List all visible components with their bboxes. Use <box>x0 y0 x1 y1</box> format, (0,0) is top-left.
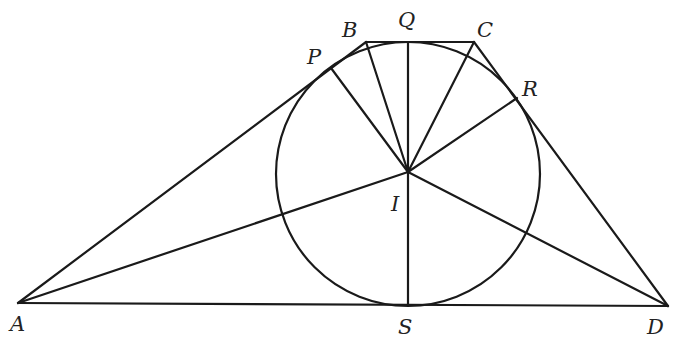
geometry-figure: ABQCPRISD <box>0 0 680 349</box>
label-I: I <box>390 192 400 216</box>
segment-IP <box>331 68 408 172</box>
label-S: S <box>398 315 412 339</box>
label-C: C <box>477 18 493 42</box>
label-P: P <box>306 45 322 69</box>
segments <box>18 42 668 306</box>
label-B: B <box>341 18 357 42</box>
segment-AD <box>18 303 668 306</box>
label-R: R <box>521 77 538 101</box>
label-D: D <box>646 315 664 339</box>
segment-IC <box>408 42 474 172</box>
segment-IR <box>408 98 517 172</box>
point-labels: ABQCPRISD <box>8 8 664 339</box>
label-A: A <box>8 312 25 336</box>
segment-IA <box>18 172 408 303</box>
label-Q: Q <box>398 8 415 32</box>
segment-IB <box>366 42 408 172</box>
